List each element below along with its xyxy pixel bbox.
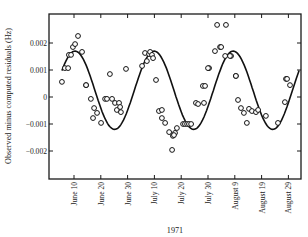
data-point (160, 116, 165, 121)
y-tick-label: −0.001 (26, 120, 48, 129)
x-tick-label: June 20 (97, 182, 106, 206)
data-point (233, 74, 238, 79)
data-point (203, 84, 208, 89)
data-point (256, 108, 261, 113)
data-point (196, 102, 201, 107)
data-point (189, 122, 194, 127)
x-tick-label: August 9 (231, 182, 240, 210)
data-point (105, 96, 110, 101)
data-point (118, 105, 123, 110)
fitted-curve (62, 51, 299, 129)
data-point (144, 59, 149, 64)
data-point (239, 106, 244, 111)
data-point (73, 42, 78, 47)
data-point (224, 23, 229, 28)
data-point (69, 52, 74, 57)
data-point (175, 126, 180, 131)
data-point (170, 148, 175, 153)
data-point (92, 106, 97, 111)
data-point (140, 64, 145, 69)
data-point (160, 108, 165, 113)
y-tick-label: 0.002 (30, 39, 47, 48)
x-tick-label: August 29 (284, 182, 293, 214)
x-tick-label: June 30 (124, 182, 133, 206)
y-tick-label: −0.002 (26, 147, 48, 156)
data-point (219, 45, 224, 50)
data-point (276, 121, 281, 126)
data-point (151, 56, 156, 61)
x-tick-label: August 19 (258, 182, 267, 214)
x-tick-label: July 10 (150, 182, 159, 204)
data-point (91, 116, 96, 121)
data-point (202, 101, 207, 106)
data-point (172, 133, 177, 138)
data-point (228, 54, 233, 59)
data-point (163, 121, 168, 126)
x-tick-label: June 10 (70, 182, 79, 206)
data-point (223, 54, 228, 59)
data-point (263, 114, 268, 119)
data-point (119, 110, 124, 115)
data-point (167, 130, 172, 135)
data-point (288, 83, 293, 88)
data-point (244, 121, 249, 126)
x-axis-label: 1971 (167, 226, 183, 235)
residuals-chart: 0.0020.0010−0.001−0.002 June 10June 20Ju… (0, 0, 308, 237)
data-point (206, 66, 211, 71)
y-axis-label: Observed minus computed residuals (Hz) (4, 28, 13, 164)
plot-frame (49, 14, 301, 179)
data-point (215, 23, 220, 28)
data-point (154, 78, 159, 83)
data-point (124, 67, 129, 72)
data-point (76, 34, 81, 39)
y-tick-label: 0 (43, 93, 47, 102)
data-point (236, 98, 241, 103)
data-point (285, 77, 290, 82)
data-point (66, 66, 71, 71)
data-point (283, 100, 288, 105)
data-point (213, 49, 218, 54)
data-point (84, 83, 89, 88)
data-point (60, 79, 65, 84)
y-tick-label: 0.001 (30, 66, 47, 75)
data-point (242, 111, 247, 116)
data-point (95, 111, 100, 116)
x-tick-label: July 30 (204, 182, 213, 204)
data-point (80, 50, 85, 55)
data-point (88, 96, 93, 101)
data-point (99, 121, 104, 126)
x-tick-label: July 20 (177, 182, 186, 204)
data-point (108, 72, 113, 77)
